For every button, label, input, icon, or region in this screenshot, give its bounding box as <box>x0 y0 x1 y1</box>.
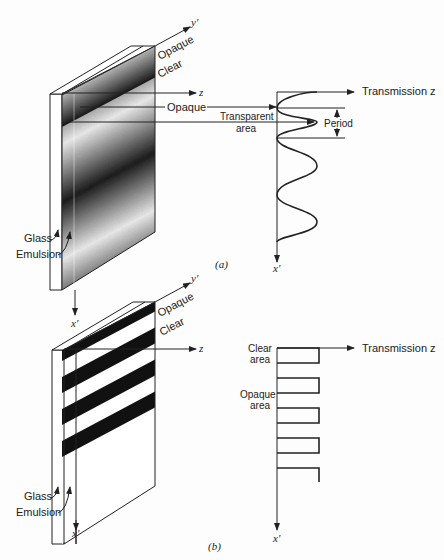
label-emulsion-b: Emulsion <box>16 506 61 518</box>
panel-a: y' z x' Opaque Clear Opaque Transparent … <box>16 0 436 329</box>
label-clear-area: Clear <box>248 343 273 354</box>
label-period: Period <box>324 118 353 129</box>
profile-x-axis-label-a: x' <box>272 262 281 274</box>
figure-canvas: y' z x' Opaque Clear Opaque Transparent … <box>0 0 444 560</box>
label-glass-a: Glass <box>24 232 53 244</box>
profile-x-axis-label-b: x' <box>272 532 281 544</box>
label-opaque-side-a: Opaque <box>167 101 206 113</box>
x-axis-label-b: x' <box>71 527 80 539</box>
z-axis-label-b: z <box>198 342 204 354</box>
label-transparent-area-a: area <box>236 123 256 134</box>
label-clear-area-2: area <box>250 354 270 365</box>
label-transparent-a: Transparent <box>220 111 274 122</box>
y-axis-label-a: y' <box>190 16 199 28</box>
caption-b: (b) <box>208 540 221 553</box>
label-opaque-area-2: area <box>250 400 270 411</box>
y-axis-label-b: y' <box>190 272 199 284</box>
caption-a: (a) <box>215 258 228 271</box>
panel-b: y' z x' Opaque Clear Glass Emulsion Tran… <box>16 261 436 555</box>
grating-plate-square <box>52 261 160 555</box>
transmission-profile-sinusoidal: Transmission z Period x' <box>272 85 436 274</box>
grating-plate-sinusoidal <box>50 0 165 318</box>
z-axis-label-a: z <box>198 86 204 98</box>
label-glass-b: Glass <box>24 490 53 502</box>
label-emulsion-a: Emulsion <box>16 248 61 260</box>
profile-title-a: Transmission z <box>362 85 436 97</box>
x-axis-label-a: x' <box>70 317 79 329</box>
transmission-profile-square: Transmission z Clear area Opaque area x' <box>240 342 436 544</box>
label-opaque-area: Opaque <box>240 389 276 400</box>
label-opaque-top-b: Opaque <box>155 290 195 319</box>
profile-title-b: Transmission z <box>362 342 436 354</box>
